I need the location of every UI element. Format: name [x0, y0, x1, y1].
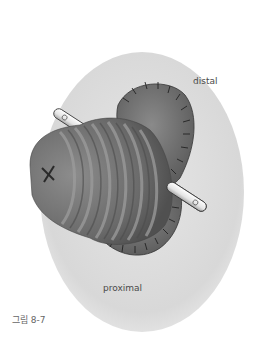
- label-proximal: proximal: [103, 283, 142, 293]
- figure-caption: 그림 8-7: [12, 313, 46, 326]
- label-distal: distal: [193, 76, 217, 86]
- stoma-illustration: [0, 0, 255, 346]
